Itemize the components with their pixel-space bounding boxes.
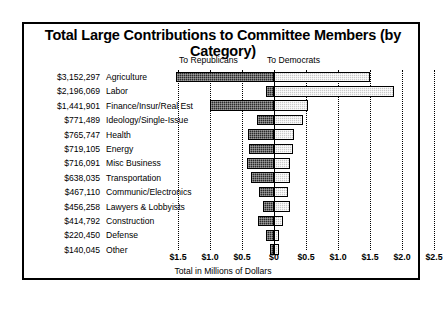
row-category-label: Communic/Electronics [106, 185, 236, 199]
chart-row: $719,105Energy [24, 142, 422, 156]
bar-republicans [247, 158, 274, 169]
row-category-label: Health [106, 128, 236, 142]
row-total-amount: $414,792 [20, 214, 100, 228]
bar-democrats [274, 72, 370, 83]
bar-democrats [274, 100, 308, 111]
row-total-amount: $467,110 [20, 185, 100, 199]
bar-republicans [257, 115, 274, 126]
bar-republicans [266, 230, 274, 241]
gridline [434, 70, 435, 250]
bar-democrats [274, 144, 293, 155]
bar-republicans [251, 172, 274, 183]
row-category-label: Misc Business [106, 156, 236, 170]
chart-row: $638,035Transportation [24, 171, 422, 185]
legend-label-republicans: To Republicans [179, 55, 238, 65]
bar-democrats [274, 129, 294, 140]
x-axis-title: Total in Millions of Dollars [24, 266, 422, 276]
row-total-amount: $719,105 [20, 142, 100, 156]
x-tick-label: $2.5 [414, 252, 443, 262]
row-category-label: Labor [106, 84, 236, 98]
chart-row: $456,258Lawyers & Lobbyists [24, 200, 422, 214]
row-total-amount: $220,450 [20, 228, 100, 242]
bar-republicans [266, 86, 274, 97]
chart-row: $716,091Misc Business [24, 156, 422, 170]
row-category-label: Transportation [106, 171, 236, 185]
row-category-label: Construction [106, 214, 236, 228]
row-total-amount: $771,489 [20, 113, 100, 127]
bar-democrats [274, 216, 283, 227]
chart-bar-rows: $3,152,297Agriculture$2,196,069Labor$1,4… [24, 70, 422, 250]
chart-row: $765,747Health [24, 128, 422, 142]
chart-plot-area: To Republicans To Democrats $3,152,297Ag… [24, 50, 422, 282]
bar-democrats [274, 230, 279, 241]
x-axis-tick-labels: $1.5$1.0$0.5$0$0.5$1.0$1.5$2.0$2.5 [24, 252, 422, 266]
bar-democrats [274, 172, 290, 183]
legend-label-democrats: To Democrats [267, 55, 320, 65]
bar-democrats [274, 187, 288, 198]
bar-republicans [249, 144, 274, 155]
bar-republicans [259, 187, 274, 198]
chart-row: $1,441,901Finance/Insur/Real Est [24, 99, 422, 113]
row-total-amount: $716,091 [20, 156, 100, 170]
bar-republicans [248, 129, 274, 140]
row-total-amount: $1,441,901 [20, 99, 100, 113]
bar-republicans [258, 216, 274, 227]
row-total-amount: $456,258 [20, 200, 100, 214]
bar-republicans [210, 100, 274, 111]
chart-frame: Total Large Contributions to Committee M… [22, 22, 420, 280]
bar-democrats [274, 115, 303, 126]
row-total-amount: $765,747 [20, 128, 100, 142]
chart-row: $414,792Construction [24, 214, 422, 228]
row-total-amount: $2,196,069 [20, 84, 100, 98]
row-category-label: Energy [106, 142, 236, 156]
chart-row: $220,450Defense [24, 228, 422, 242]
row-category-label: Defense [106, 228, 236, 242]
bar-republicans [176, 72, 274, 83]
row-total-amount: $638,035 [20, 171, 100, 185]
row-category-label: Lawyers & Lobbyists [106, 200, 236, 214]
bar-democrats [274, 86, 394, 97]
bar-republicans [263, 201, 274, 212]
row-total-amount: $3,152,297 [20, 70, 100, 84]
row-category-label: Ideology/Single-Issue [106, 113, 236, 127]
chart-row: $3,152,297Agriculture [24, 70, 422, 84]
bar-democrats [274, 158, 290, 169]
chart-row: $467,110Communic/Electronics [24, 185, 422, 199]
chart-row: $2,196,069Labor [24, 84, 422, 98]
chart-row: $771,489Ideology/Single-Issue [24, 113, 422, 127]
bar-democrats [274, 201, 290, 212]
